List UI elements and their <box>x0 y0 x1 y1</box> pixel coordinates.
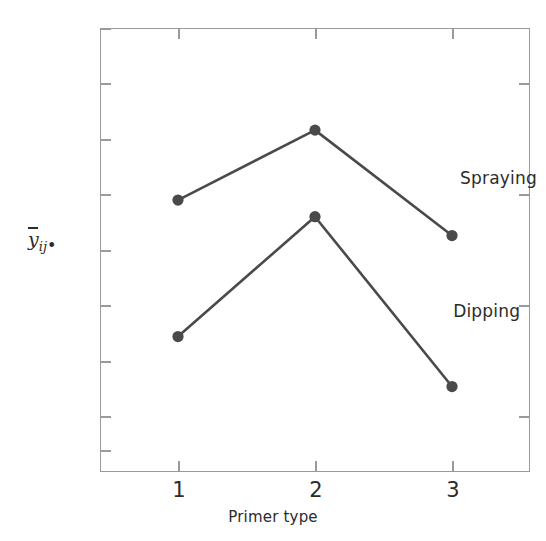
y-tick-right-4-5 <box>519 305 530 307</box>
x-tick-3 <box>452 461 454 472</box>
series-label-spraying: Spraying <box>460 168 537 188</box>
series-label-dipping: Dipping <box>453 301 520 321</box>
x-tick-1 <box>178 461 180 472</box>
y-bar-symbol: y <box>28 228 39 250</box>
y-dot-symbol: • <box>47 236 56 255</box>
y-tick-major-7 <box>100 28 111 30</box>
y-tick-minor-5-5 <box>100 194 111 196</box>
x-tick-label-3: 3 <box>433 478 473 502</box>
x-tick-label-1: 1 <box>159 478 199 502</box>
y-tick-major-6 <box>100 139 111 141</box>
y-tick-minor-3-5 <box>100 416 111 418</box>
y-tick-right-3-5 <box>519 416 530 418</box>
y-tick-major-3 <box>100 450 111 452</box>
x-tick-2 <box>315 461 317 472</box>
plot-frame <box>100 28 530 472</box>
y-tick-minor-6-5 <box>100 83 111 85</box>
x-tick-top-3 <box>452 28 454 39</box>
y-subscript: ij <box>39 239 47 254</box>
x-tick-top-2 <box>315 28 317 39</box>
chart-page: 7.0 6.0 5.0 4.0 3.0 1 2 3 Primer type yi… <box>0 0 546 541</box>
x-tick-top-1 <box>178 28 180 39</box>
y-axis-title: yij• <box>28 228 56 255</box>
x-tick-label-2: 2 <box>296 478 336 502</box>
y-tick-minor-4-5 <box>100 305 111 307</box>
y-tick-major-5 <box>100 250 111 252</box>
x-axis-title: Primer type <box>0 508 546 526</box>
y-tick-right-6-5 <box>519 83 530 85</box>
y-tick-major-4 <box>100 361 111 363</box>
y-tick-right-5-5 <box>519 194 530 196</box>
